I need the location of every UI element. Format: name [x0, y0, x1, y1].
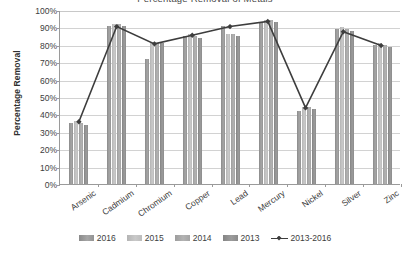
y-axis-tick-labels: 100%90%80%70%60%50%40%30%20%10%0% [24, 11, 57, 185]
y-axis-title: Percentage Removal [12, 18, 22, 168]
legend-label: 2015 [145, 233, 164, 243]
y-tick-label: 90% [24, 24, 57, 32]
line-marker-zinc [378, 43, 383, 48]
legend-line-marker-icon [271, 235, 288, 242]
legend-item-2013[interactable]: 2013 [223, 233, 260, 243]
line-marker-nickel [303, 105, 308, 110]
line-marker-arsenic [76, 119, 81, 124]
chart-container: Percentage Removal of Metals Percentage … [0, 0, 410, 253]
legend-item-2016[interactable]: 2016 [79, 233, 116, 243]
legend-swatch-2013 [223, 235, 238, 241]
y-tick-label: 40% [24, 111, 57, 119]
legend-label: 2016 [97, 233, 116, 243]
line-marker-chromium [152, 41, 157, 46]
x-tick-label: Chromium [136, 188, 174, 219]
y-tick-label: 50% [24, 94, 57, 102]
x-axis-category-labels: ArsenicCadmiumChromiumCopperLeadMercuryN… [59, 186, 400, 228]
x-tick-label: Cadmium [100, 188, 136, 217]
y-tick-label: 100% [24, 7, 57, 15]
y-tick-label: 0% [24, 181, 57, 189]
chart-legend: 20162015201420132013-2016 [0, 231, 410, 245]
x-tick-label: Lead [228, 188, 249, 207]
x-tick-mark [401, 184, 402, 187]
legend-label: 2013 [241, 233, 260, 243]
line-path [79, 21, 381, 121]
y-tick-label: 60% [24, 77, 57, 85]
line-marker-copper [190, 33, 195, 38]
legend-swatch-2014 [175, 235, 190, 241]
x-tick-label: Zinc [382, 188, 401, 205]
legend-item-2014[interactable]: 2014 [175, 233, 212, 243]
legend-item-2015[interactable]: 2015 [127, 233, 164, 243]
legend-label: 2013-2016 [291, 233, 332, 243]
line-marker-lead [227, 24, 232, 29]
plot-area [59, 11, 400, 185]
line-marker-silver [341, 29, 346, 34]
y-tick-label: 80% [24, 42, 57, 50]
chart-title: Percentage Removal of Metals [0, 0, 410, 5]
x-tick-label: Nickel [300, 188, 325, 209]
line-marker-mercury [265, 19, 270, 24]
legend-item-2013-2016[interactable]: 2013-2016 [271, 233, 332, 243]
line-series-2013-2016 [60, 11, 400, 184]
legend-swatch-2015 [127, 235, 142, 241]
line-marker-cadmium [114, 24, 119, 29]
legend-label: 2014 [193, 233, 212, 243]
x-tick-label: Arsenic [69, 188, 98, 212]
y-tick-label: 10% [24, 164, 57, 172]
x-tick-label: Mercury [256, 188, 287, 214]
x-tick-label: Copper [183, 188, 212, 212]
y-tick-label: 30% [24, 129, 57, 137]
y-tick-label: 20% [24, 146, 57, 154]
legend-swatch-2016 [79, 235, 94, 241]
y-tick-label: 70% [24, 59, 57, 67]
x-tick-label: Silver [340, 188, 363, 208]
